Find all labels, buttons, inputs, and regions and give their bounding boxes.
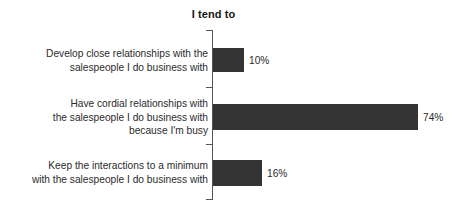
axis-tick — [206, 30, 212, 31]
bar-value-label: 10% — [249, 56, 269, 66]
bar-develop-close-relationships — [213, 48, 244, 72]
bar-category-label: Have cordial relationships with the sale… — [0, 97, 208, 138]
axis-tick — [206, 199, 212, 200]
axis-tick — [206, 87, 212, 88]
bar-category-label: Develop close relationships with the sal… — [0, 47, 208, 74]
bar-have-cordial-relationships — [213, 104, 418, 130]
plot-area: Develop close relationships with the sal… — [0, 0, 457, 215]
bar-category-label: Keep the interactions to a minimum with … — [0, 159, 208, 186]
bar-value-label: 16% — [267, 169, 287, 179]
bar-chart: I tend to Develop close relationships wi… — [0, 0, 457, 215]
bar-keep-interactions-minimum — [213, 160, 262, 186]
axis-tick — [206, 144, 212, 145]
bar-value-label: 74% — [423, 113, 443, 123]
